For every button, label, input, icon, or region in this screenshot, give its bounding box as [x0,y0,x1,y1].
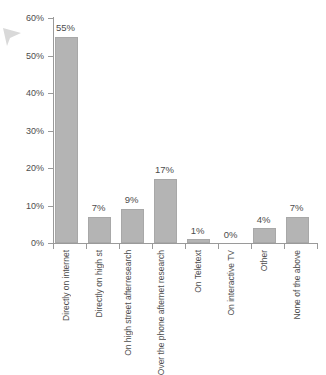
x-label-line: On Teletext [193,250,203,293]
y-tick-label-50: 50% [26,52,44,61]
x-label-line: None of the above [292,250,302,319]
x-label-line: research [123,250,133,283]
value-label-none-of-the-above: 7% [276,203,317,213]
x-label-line: On interactive TV [226,250,236,316]
corner-smudge-icon [2,26,24,48]
x-label-line: net research [156,250,166,297]
x-label-directly-on-high-st: Directly on high st [94,250,104,318]
y-tick-label-60: 60% [26,14,44,23]
x-label-on-high-street-after-research: On high street after research [123,250,133,356]
y-tick-label-40: 40% [26,89,44,98]
y-tick-30 [48,131,53,132]
y-tick-40 [48,93,53,94]
x-label-line: Directly on high st [94,250,104,318]
bar-over-the-phone-after-net-research[interactable] [154,179,177,243]
bar-on-high-street-after-research[interactable] [121,209,144,243]
x-label-line: Other [259,250,269,271]
x-tick-1 [86,244,87,249]
x-tick-8 [317,244,318,249]
bar-none-of-the-above[interactable] [286,217,309,243]
x-label-line: Over the phone after [156,297,166,375]
x-tick-7 [284,244,285,249]
bar-on-teletext[interactable] [187,239,210,243]
y-tick-60 [48,18,53,19]
x-tick-0 [53,244,54,249]
value-label-over-the-phone-after-net-research: 17% [144,165,185,175]
value-label-on-high-street-after-research: 9% [111,195,152,205]
bar-directly-on-high-st[interactable] [88,217,111,243]
y-tick-label-0: 0% [31,239,44,248]
x-tick-2 [119,244,120,249]
x-label-none-of-the-above: None of the above [292,250,302,319]
x-label-on-interactive-tv: On interactive TV [226,250,236,316]
y-tick-50 [48,56,53,57]
x-label-on-teletext: On Teletext [193,250,203,293]
y-tick-10 [48,206,53,207]
x-tick-3 [152,244,153,249]
y-tick-label-10: 10% [26,202,44,211]
x-label-directly-on-internet: Directly on internet [61,250,71,321]
bar-other[interactable] [253,228,276,243]
y-tick-label-20: 20% [26,164,44,173]
y-tick-20 [48,168,53,169]
value-label-other: 4% [243,215,284,225]
x-label-line: On high street after [123,283,133,356]
x-label-over-the-phone-after-net-research: Over the phone after net research [156,250,166,375]
value-label-on-interactive-tv: 0% [210,230,251,240]
value-label-directly-on-internet: 55% [45,23,86,33]
x-tick-4 [185,244,186,249]
y-tick-label-30: 30% [26,127,44,136]
x-label-line: Directly on internet [61,250,71,321]
x-tick-5 [218,244,219,249]
x-tick-6 [251,244,252,249]
x-label-other: Other [259,250,269,271]
bar-directly-on-internet[interactable] [55,37,78,243]
